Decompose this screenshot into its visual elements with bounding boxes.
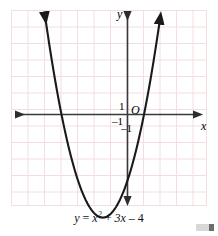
tick-label-negative-one-y: –1 [121,123,132,134]
origin-label: O [131,104,140,116]
corner-marker [196,224,214,231]
graph-figure: y x O 1 –1 –1 y = x2 + 3x – 4 [0,0,218,236]
equation-plus: + [105,211,112,225]
equation-equals: = [83,211,90,225]
equation-lhs: y [74,211,79,225]
equation-term1-exponent: 2 [98,210,102,219]
y-axis-label: y [117,8,122,20]
equation-term2: 3x [114,211,125,225]
parabola-overlay [0,0,218,236]
coordinate-plane [11,10,207,206]
equation-minus: – [129,211,135,225]
equation-term3: 4 [138,211,144,225]
tick-label-positive-one: 1 [119,101,125,112]
equation-caption: y = x2 + 3x – 4 [0,210,218,226]
x-axis-label: x [201,120,206,132]
